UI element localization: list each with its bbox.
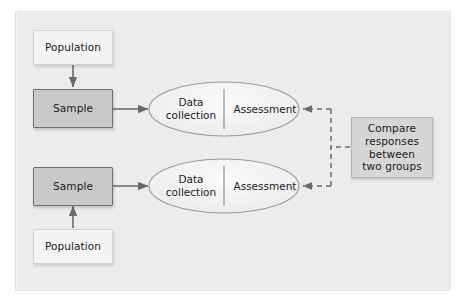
data-collection-text-bottom: Data collection xyxy=(166,173,216,198)
sample-box-top[interactable]: Sample xyxy=(33,89,113,128)
sample-label-bottom: Sample xyxy=(53,180,93,193)
population-label-bottom: Population xyxy=(45,240,101,253)
assessment-label-bottom: Assessment xyxy=(228,177,302,195)
data-collection-text-top: Data collection xyxy=(166,96,216,121)
sample-label-top: Sample xyxy=(53,102,93,115)
assessment-text-top: Assessment xyxy=(234,103,297,116)
sample-box-bottom[interactable]: Sample xyxy=(33,167,113,206)
data-collection-label-bottom: Data collection xyxy=(160,170,222,202)
compare-line-1: Compare xyxy=(368,122,416,135)
population-box-top[interactable]: Population xyxy=(33,30,113,65)
figure-canvas: Population Sample Data collection Assess… xyxy=(0,0,466,301)
assessment-label-top: Assessment xyxy=(228,100,302,118)
compare-line-3: between xyxy=(369,148,415,161)
population-box-bottom[interactable]: Population xyxy=(33,229,113,264)
assessment-text-bottom: Assessment xyxy=(234,180,297,193)
compare-box[interactable]: Compare responses between two groups xyxy=(351,117,433,178)
compare-line-2: responses xyxy=(365,135,419,148)
data-collection-label-top: Data collection xyxy=(160,93,222,125)
population-label-top: Population xyxy=(45,41,101,54)
compare-line-4: two groups xyxy=(362,160,421,173)
